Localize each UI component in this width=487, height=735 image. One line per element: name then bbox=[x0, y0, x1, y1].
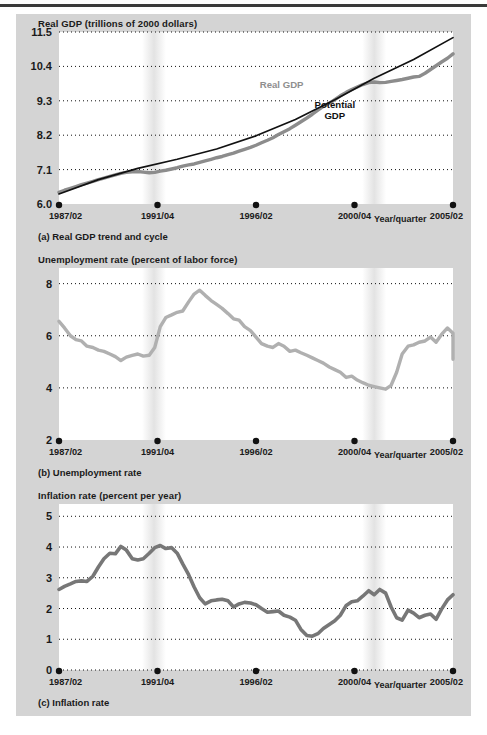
x-tick-label: 1991/04 bbox=[141, 211, 175, 221]
x-tick-label: 1987/02 bbox=[49, 211, 82, 221]
x-tick-marker bbox=[154, 438, 160, 444]
y-tick-label: 1 bbox=[46, 633, 52, 645]
y-tick-label: 11.5 bbox=[31, 26, 52, 38]
x-tick-label: 2005/02 bbox=[430, 211, 463, 221]
x-tick-marker bbox=[351, 202, 357, 208]
figure-page: Real GDP (trillions of 2000 dollars) 11.… bbox=[0, 0, 487, 735]
chart-b-caption: (b) Unemployment rate bbox=[38, 467, 141, 478]
series-annotation-real-gdp: Real GDP bbox=[260, 79, 304, 90]
chart-a-xaxis-note: Year/quarter bbox=[374, 214, 427, 224]
chart-a-caption: (a) Real GDP trend and cycle bbox=[38, 231, 168, 242]
chart-panel-b: Unemployment rate (percent of labor forc… bbox=[16, 254, 471, 486]
x-tick-label: 2005/02 bbox=[430, 447, 463, 457]
x-tick-marker bbox=[450, 202, 456, 208]
x-tick-label: 1996/02 bbox=[239, 677, 272, 687]
x-tick-marker bbox=[450, 668, 456, 674]
y-tick-label: 10.4 bbox=[31, 60, 53, 72]
y-tick-label: 2 bbox=[46, 434, 52, 446]
x-tick-label: 2000/04 bbox=[338, 211, 372, 221]
x-tick-label: 1996/02 bbox=[239, 447, 272, 457]
x-tick-label: 2000/04 bbox=[338, 677, 372, 687]
x-tick-marker bbox=[253, 438, 259, 444]
chart-b-xaxis-note: Year/quarter bbox=[374, 450, 427, 460]
x-tick-marker bbox=[351, 438, 357, 444]
x-tick-marker bbox=[450, 438, 456, 444]
x-tick-marker bbox=[56, 202, 62, 208]
x-tick-marker bbox=[154, 202, 160, 208]
x-tick-label: 1987/02 bbox=[49, 447, 82, 457]
chart-panel-a: Real GDP (trillions of 2000 dollars) 11.… bbox=[16, 18, 471, 250]
chart-c-xaxis-note: Year/quarter bbox=[374, 680, 427, 690]
series-annotation-potential-gdp: GDP bbox=[324, 110, 345, 121]
x-tick-label: 1991/04 bbox=[141, 447, 175, 457]
x-tick-marker bbox=[154, 668, 160, 674]
x-tick-label: 1996/02 bbox=[239, 211, 272, 221]
x-tick-label: 2000/04 bbox=[338, 447, 372, 457]
x-tick-marker bbox=[56, 438, 62, 444]
y-tick-label: 2 bbox=[46, 603, 52, 615]
y-tick-label: 0 bbox=[46, 664, 52, 676]
y-tick-label: 7.1 bbox=[37, 164, 52, 176]
y-tick-label: 4 bbox=[46, 382, 53, 394]
x-tick-label: 1991/04 bbox=[141, 677, 175, 687]
y-tick-label: 3 bbox=[46, 572, 52, 584]
x-tick-marker bbox=[56, 668, 62, 674]
y-tick-label: 9.3 bbox=[37, 95, 52, 107]
chart-c-caption: (c) Inflation rate bbox=[38, 697, 109, 708]
top-rule-divider bbox=[0, 4, 487, 7]
x-tick-label: 2005/02 bbox=[430, 677, 463, 687]
chart-panel-c: Inflation rate (percent per year) 543210… bbox=[16, 490, 471, 716]
y-tick-label: 8 bbox=[46, 278, 52, 290]
series-annotation-potential-gdp: Potential bbox=[315, 99, 356, 110]
y-tick-label: 8.2 bbox=[37, 129, 52, 141]
x-tick-label: 1987/02 bbox=[49, 677, 82, 687]
x-tick-marker bbox=[253, 202, 259, 208]
x-tick-marker bbox=[351, 668, 357, 674]
y-tick-label: 5 bbox=[46, 510, 52, 522]
x-tick-marker bbox=[253, 668, 259, 674]
y-tick-label: 6 bbox=[46, 330, 52, 342]
figure-panel: Real GDP (trillions of 2000 dollars) 11.… bbox=[16, 14, 471, 716]
y-tick-label: 6.0 bbox=[37, 198, 52, 210]
y-tick-label: 4 bbox=[46, 541, 53, 553]
